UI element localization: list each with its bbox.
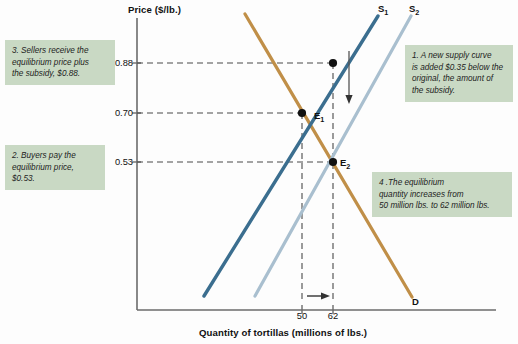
supply-curve-1	[204, 16, 378, 296]
callout-sellers-line-1: 3. Sellers receive the	[12, 45, 109, 57]
callout-buyers-pay: 2. Buyers pay the equilibrium price, $0.…	[5, 145, 105, 190]
callout-equilibrium-quantity: 4 .The equilibrium quantity increases fr…	[372, 172, 512, 217]
callout-new-supply-curve: 1. A new supply curve is added $0.35 bel…	[405, 45, 513, 102]
equilibrium-label-e1-sub: 1	[320, 115, 324, 124]
callout-supply-line-1: 1. A new supply curve	[412, 50, 507, 62]
callout-sellers-receive: 3. Sellers receive the equilibrium price…	[5, 40, 115, 85]
x-tick-label-62: 62	[321, 311, 345, 321]
demand-curve-label: D	[412, 296, 419, 307]
supply-curve-2-label-sub: 2	[415, 8, 419, 17]
callout-supply-line-2: is added $0.35 below the	[412, 62, 507, 74]
callout-buyers-line-1: 2. Buyers pay the	[12, 150, 99, 162]
x-axis-title: Quantity of tortillas (millions of lbs.)	[199, 327, 367, 338]
callout-quantity-line-3: 50 million lbs. to 62 million lbs.	[379, 200, 506, 212]
callout-supply-line-3: original, the amount of	[412, 73, 507, 85]
equilibrium-label-e2: E2	[340, 157, 350, 171]
quantity-increase-arrow	[307, 292, 330, 299]
y-tick-label-070: 0.70	[105, 108, 133, 118]
callout-sellers-line-3: the subsidy, $0.88.	[12, 68, 109, 80]
callout-buyers-line-2: equilibrium price,	[12, 162, 99, 174]
callout-quantity-line-1: 4 .The equilibrium	[379, 177, 506, 189]
supply-demand-figure: Price ($/lb.) Quantity of tortillas (mil…	[0, 0, 518, 344]
callout-sellers-line-2: equilibrium price plus	[12, 57, 109, 69]
supply-curve-2-label: S2	[409, 3, 419, 17]
x-tick-label-50: 50	[290, 311, 314, 321]
callout-buyers-line-3: $0.53.	[12, 173, 99, 185]
equilibrium-point-e2	[329, 158, 337, 166]
seller-price-point	[329, 59, 337, 67]
callout-supply-line-4: the subsidy.	[412, 85, 507, 97]
y-axis-title: Price ($/lb.)	[128, 4, 181, 15]
supply-curve-1-label-sub: 1	[384, 8, 388, 17]
equilibrium-label-e1: E1	[314, 110, 324, 124]
equilibrium-label-e2-sub: 2	[346, 162, 350, 171]
y-tick-label-053: 0.53	[105, 157, 133, 167]
callout-quantity-line-2: quantity increases from	[379, 189, 506, 201]
supply-curve-1-label: S1	[378, 3, 388, 17]
equilibrium-point-e1	[298, 109, 306, 117]
